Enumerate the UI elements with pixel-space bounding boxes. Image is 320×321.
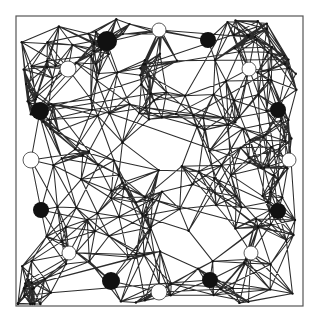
graph-vertex <box>88 150 90 152</box>
graph-vertex <box>234 227 236 229</box>
graph-vertex <box>25 285 27 287</box>
graph-vertex <box>267 51 269 53</box>
graph-vertex <box>161 191 163 193</box>
graph-vertex <box>212 93 214 95</box>
graph-vertex <box>286 167 288 169</box>
graph-vertex <box>281 196 283 198</box>
graph-vertex <box>270 223 272 225</box>
graph-vertex <box>234 121 236 123</box>
graph-vertex <box>45 235 47 237</box>
graph-vertex <box>214 191 216 193</box>
graph-vertex <box>127 256 129 258</box>
graph-vertex <box>110 197 112 199</box>
graph-vertex <box>110 190 112 192</box>
graph-vertex <box>95 31 97 33</box>
graph-vertex <box>169 294 171 296</box>
graph-vertex <box>285 239 287 241</box>
graph-vertex <box>144 106 146 108</box>
graph-vertex <box>214 59 216 61</box>
graph-vertex <box>262 136 264 138</box>
graph-vertex <box>17 303 19 305</box>
graph-vertex <box>248 156 250 158</box>
graph-vertex <box>27 279 29 281</box>
filled-node-marker <box>202 272 218 288</box>
graph-vertex <box>46 66 48 68</box>
graph-vertex <box>141 212 143 214</box>
graph-vertex <box>39 303 41 305</box>
hollow-node-marker <box>244 246 258 260</box>
graph-vertex <box>271 54 273 56</box>
graph-vertex <box>291 292 293 294</box>
graph-vertex <box>230 174 232 176</box>
graph-vertex <box>266 22 268 24</box>
graph-vertex <box>247 301 249 303</box>
graph-vertex <box>158 169 160 171</box>
graph-vertex <box>271 46 273 48</box>
graph-vertex <box>121 181 123 183</box>
graph-vertex <box>238 51 240 53</box>
graph-vertex <box>249 139 251 141</box>
graph-vertex <box>21 265 23 267</box>
graph-vertex <box>93 43 95 45</box>
graph-vertex <box>90 98 92 100</box>
graph-vertex <box>27 100 29 102</box>
graph-canvas <box>0 0 320 321</box>
graph-vertex <box>149 229 151 231</box>
graph-vertex <box>61 157 63 159</box>
hollow-node-marker <box>62 246 76 260</box>
graph-vertex <box>233 47 235 49</box>
graph-vertex <box>82 154 84 156</box>
graph-vertex <box>287 67 289 69</box>
hollow-node-marker <box>23 152 39 168</box>
graph-vertex <box>42 121 44 123</box>
graph-vertex <box>24 282 26 284</box>
graph-vertex <box>47 103 49 105</box>
graph-vertex <box>243 262 245 264</box>
graph-vertex <box>34 98 36 100</box>
graph-vertex <box>260 167 262 169</box>
graph-vertex <box>255 218 257 220</box>
graph-vertex <box>278 148 280 150</box>
graph-vertex <box>198 170 200 172</box>
graph-vertex <box>239 147 241 149</box>
graph-vertex <box>257 226 259 228</box>
graph-vertex <box>97 164 99 166</box>
graph-vertex <box>191 183 193 185</box>
filled-node-marker <box>33 202 49 218</box>
graph-vertex <box>128 23 130 25</box>
graph-vertex <box>135 201 137 203</box>
filled-node-marker <box>270 203 286 219</box>
graph-vertex <box>121 141 123 143</box>
graph-vertex <box>46 60 48 62</box>
graph-vertex <box>36 96 38 98</box>
graph-vertex <box>267 79 269 81</box>
graph-vertex <box>270 79 272 81</box>
graph-vertex <box>187 230 189 232</box>
graph-vertex <box>284 63 286 65</box>
graph-vertex <box>144 59 146 61</box>
graph-vertex <box>138 112 140 114</box>
graph-vertex <box>213 177 215 179</box>
graph-vertex <box>31 282 33 284</box>
graph-vertex <box>50 292 52 294</box>
graph-vertex <box>208 150 210 152</box>
graph-vertex <box>220 164 222 166</box>
graph-vertex <box>128 103 130 105</box>
graph-vertex <box>227 124 229 126</box>
graph-vertex <box>120 300 122 302</box>
graph-vertex <box>265 133 267 135</box>
graph-vertex <box>96 212 98 214</box>
graph-vertex <box>238 302 240 304</box>
hollow-node-marker <box>60 61 76 77</box>
graph-vertex <box>48 119 50 121</box>
graph-vertex <box>196 125 198 127</box>
graph-vertex <box>235 195 237 197</box>
graph-vertex <box>139 74 141 76</box>
hollow-node-marker <box>242 62 256 76</box>
graph-vertex <box>65 226 67 228</box>
graph-vertex <box>56 206 58 208</box>
edge-lines <box>18 19 296 304</box>
graph-vertex <box>65 263 67 265</box>
filled-node-marker <box>270 102 286 118</box>
graph-vertex <box>31 65 33 67</box>
